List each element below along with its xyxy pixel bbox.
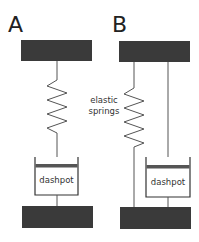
- viscoelastic-models-diagram: A dashpot elastic springs B dashpot: [0, 0, 199, 242]
- panel-a-spring: [47, 61, 67, 164]
- panel-a-bottom-plate: [22, 206, 93, 228]
- panel-a: A dashpot: [8, 12, 93, 228]
- annotation-line-2: springs: [89, 106, 120, 116]
- panel-b-bottom-plate: [120, 207, 191, 229]
- panel-b-dashpot-label: dashpot: [151, 177, 186, 187]
- panel-b-spring: [124, 62, 144, 207]
- panel-b-label: B: [112, 12, 127, 37]
- panel-b-piston: [147, 165, 190, 169]
- panel-b-dashpot: dashpot: [146, 157, 190, 197]
- annotation-line-1: elastic: [90, 95, 118, 105]
- panel-b: B dashpot: [112, 12, 191, 229]
- panel-b-top-plate: [119, 41, 190, 62]
- panel-a-top-plate: [21, 40, 92, 61]
- panel-a-dashpot: dashpot: [35, 157, 78, 195]
- panel-a-piston: [36, 164, 78, 168]
- panel-a-label: A: [8, 12, 23, 37]
- elastic-springs-annotation: elastic springs: [89, 95, 120, 116]
- panel-a-dashpot-label: dashpot: [39, 175, 74, 185]
